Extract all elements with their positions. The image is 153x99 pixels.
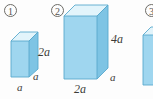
prism-1-depth-label: a <box>33 71 39 82</box>
marker-label-3: 3 <box>145 6 153 17</box>
prism-2-front-face <box>64 16 97 79</box>
figure-container: 1 2a a a 2 4a a 2a 3 <box>0 0 153 99</box>
prism-2-height-label: 4a <box>111 33 123 45</box>
prism-2 <box>64 5 110 82</box>
prism-3-front-face <box>143 35 153 85</box>
prism-1-front-face <box>11 41 29 77</box>
prism-1-width-label: a <box>17 82 23 93</box>
prism-2-side-face <box>97 5 108 79</box>
prism-2-width-label: 2a <box>74 83 86 95</box>
prism-1-height-label: 2a <box>38 46 50 58</box>
prism-2-depth-label: a <box>110 72 116 83</box>
marker-label-2: 2 <box>51 6 64 17</box>
prism-3-partial <box>143 27 153 89</box>
marker-label-1: 1 <box>4 6 17 17</box>
